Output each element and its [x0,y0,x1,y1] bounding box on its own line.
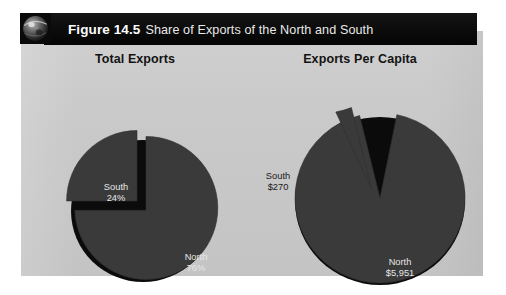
pie-label-north-exports-per-capita: North $5,951 [371,257,429,280]
figure-container: Figure 14.5Share of Exports of the North… [0,0,506,295]
figure-header-text: Figure 14.5Share of Exports of the North… [68,22,373,37]
figure-number: Figure 14.5 [68,22,140,37]
chart-title-total-exports: Total Exports [30,47,240,66]
pie-chart-exports-per-capita [250,66,470,271]
pie-label-north-value: $5,951 [371,268,429,279]
pie-label-south-value: 24% [90,193,142,204]
chart-exports-per-capita: Exports Per Capita South $270 North $5,9… [250,47,470,271]
globe-icon [20,13,51,44]
chart-total-exports: Total Exports South 24% North 76% [30,47,240,271]
pie-chart-total-exports [30,66,240,271]
pie-label-south-exports-per-capita: South $270 [250,171,306,194]
pie-label-south-name: South [90,182,142,193]
pie-area-exports-per-capita: South $270 North $5,951 [250,66,470,271]
pie-label-north-name: North [170,252,222,263]
chart-title-exports-per-capita: Exports Per Capita [250,47,470,66]
pie-label-south-value: $270 [250,182,306,193]
pie-area-total-exports: South 24% North 76% [30,66,240,271]
pie-label-north-name: North [371,257,429,268]
pie-label-south-name: South [250,171,306,182]
figure-header-bar: Figure 14.5Share of Exports of the North… [44,13,477,45]
pie-label-north-value: 76% [170,263,222,274]
figure-caption: Share of Exports of the North and South [145,23,373,37]
pie-label-south-total-exports: South 24% [90,182,142,205]
pie-label-north-total-exports: North 76% [170,252,222,275]
